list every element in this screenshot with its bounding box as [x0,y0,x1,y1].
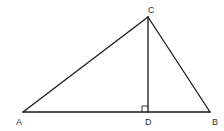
vertex-labels: A B C D [16,5,218,127]
label-b: B [212,117,218,127]
label-c: C [148,5,155,15]
label-d: D [145,117,152,127]
segment-ac [23,17,148,112]
right-angle-marker [142,106,148,112]
geometry-diagram: A B C D [0,0,224,131]
label-a: A [16,117,22,127]
segment-bc [148,17,210,112]
segments [23,17,210,112]
